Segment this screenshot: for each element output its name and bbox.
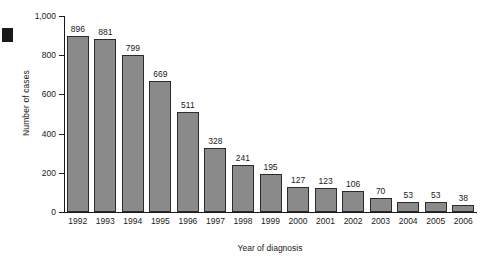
bar-slot: 511	[177, 16, 199, 212]
bar	[232, 165, 254, 212]
y-tick-label: 200	[16, 168, 56, 178]
bar-slot: 669	[149, 16, 171, 212]
bar-slot: 106	[342, 16, 364, 212]
bar-value-label: 195	[251, 162, 290, 172]
bar	[122, 55, 144, 212]
bar-chart: Number of cases Year of diagnosis 020040…	[0, 0, 493, 261]
bar	[315, 188, 337, 212]
bar-slot: 70	[370, 16, 392, 212]
bar-slot: 53	[397, 16, 419, 212]
bar-slot: 53	[425, 16, 447, 212]
y-tick-label: 1,000	[16, 11, 56, 21]
bar-slot: 241	[232, 16, 254, 212]
bar	[370, 198, 392, 212]
y-tick-label: 400	[16, 129, 56, 139]
x-tick-label: 2006	[443, 216, 483, 226]
bar-value-label: 881	[86, 27, 125, 37]
bar-value-label: 799	[113, 43, 152, 53]
bar-value-label: 328	[196, 136, 235, 146]
corner-mark-decoration	[2, 28, 13, 42]
bar	[177, 112, 199, 212]
bar	[94, 39, 116, 212]
bar-series: 8968817996695113282411951271231067053533…	[64, 16, 477, 212]
bar-slot: 328	[204, 16, 226, 212]
bar-slot: 38	[452, 16, 474, 212]
y-tick-label: 800	[16, 50, 56, 60]
bar-value-label: 511	[168, 100, 207, 110]
bar-slot: 896	[67, 16, 89, 212]
bar-value-label: 669	[141, 69, 180, 79]
bar	[287, 187, 309, 212]
x-axis-line	[64, 212, 477, 213]
x-axis-title: Year of diagnosis	[60, 243, 480, 253]
y-tick-label: 600	[16, 89, 56, 99]
bar	[452, 205, 474, 212]
bar	[67, 36, 89, 212]
y-tick-label: 0	[16, 207, 56, 217]
bar-slot: 799	[122, 16, 144, 212]
y-tick-mark	[59, 212, 64, 213]
bar	[397, 202, 419, 212]
bar	[425, 202, 447, 212]
bar-value-label: 38	[444, 193, 483, 203]
